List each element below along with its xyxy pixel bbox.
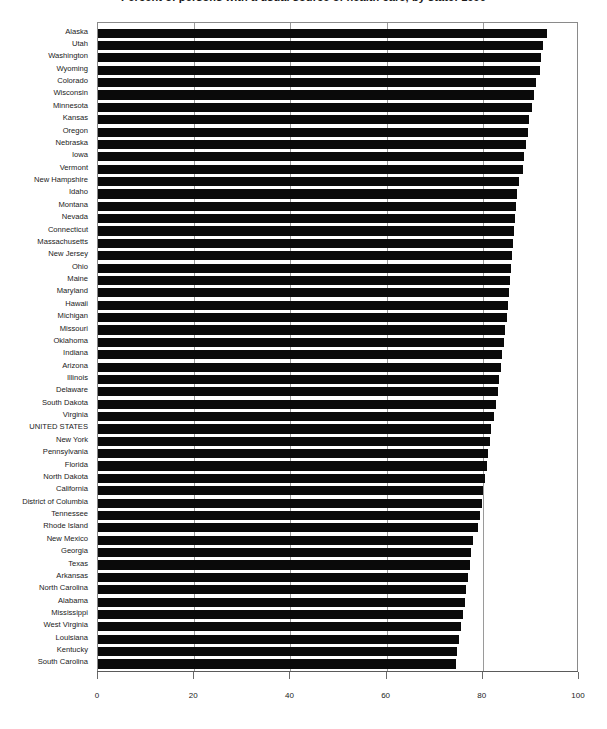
bar (98, 90, 534, 99)
category-label: Illinois (0, 374, 88, 382)
category-label: Tennessee (0, 510, 88, 518)
bar (98, 499, 482, 508)
category-label: Mississippi (0, 609, 88, 617)
x-tick-20 (193, 672, 194, 679)
bar (98, 474, 485, 483)
bar (98, 536, 473, 545)
bar (98, 338, 504, 347)
category-label: Delaware (0, 386, 88, 394)
x-axis-line (97, 671, 578, 672)
bar (98, 103, 532, 112)
x-tick-0 (97, 672, 98, 679)
bar (98, 449, 488, 458)
bar (98, 226, 514, 235)
bar (98, 165, 523, 174)
bar (98, 635, 459, 644)
category-label: Louisiana (0, 634, 88, 642)
plot-area (97, 22, 578, 672)
bar (98, 350, 502, 359)
category-label: Indiana (0, 349, 88, 357)
bar (98, 585, 466, 594)
bar (98, 152, 524, 161)
bar (98, 140, 526, 149)
category-label: Michigan (0, 312, 88, 320)
bar (98, 189, 517, 198)
category-label: Wyoming (0, 65, 88, 73)
bar (98, 461, 487, 470)
category-label: West Virginia (0, 621, 88, 629)
bar (98, 177, 519, 186)
bar (98, 560, 470, 569)
x-tick-label: 60 (381, 691, 390, 700)
category-label: South Dakota (0, 399, 88, 407)
bar (98, 400, 496, 409)
category-label: New Mexico (0, 535, 88, 543)
category-label: South Carolina (0, 658, 88, 666)
category-label: Georgia (0, 547, 88, 555)
category-label: Pennsylvania (0, 448, 88, 456)
bar (98, 647, 457, 656)
bar (98, 41, 543, 50)
category-axis-labels: AlaskaUtahWashingtonWyomingColoradoWisco… (0, 22, 92, 672)
bar (98, 202, 516, 211)
x-tick-80 (482, 672, 483, 679)
category-label: Colorado (0, 77, 88, 85)
category-label: New Hampshire (0, 176, 88, 184)
category-label: California (0, 485, 88, 493)
category-label: Florida (0, 461, 88, 469)
bar (98, 288, 509, 297)
bar (98, 53, 541, 62)
bar (98, 325, 505, 334)
bar (98, 573, 468, 582)
category-label: Connecticut (0, 226, 88, 234)
bar (98, 239, 513, 248)
category-label: Nebraska (0, 139, 88, 147)
category-label: Oregon (0, 127, 88, 135)
chart-title: Percent of persons with a usual source o… (0, 0, 607, 4)
x-tick-label: 100 (571, 691, 584, 700)
category-label: Alabama (0, 597, 88, 605)
category-label: Hawaii (0, 300, 88, 308)
bar (98, 29, 547, 38)
category-label: Kansas (0, 114, 88, 122)
category-label: Maine (0, 275, 88, 283)
category-label: Idaho (0, 188, 88, 196)
x-tick-label: 20 (189, 691, 198, 700)
category-label: Ohio (0, 263, 88, 271)
category-label: District of Columbia (0, 498, 88, 506)
category-label: Washington (0, 52, 88, 60)
bar (98, 301, 508, 310)
category-label: Oklahoma (0, 337, 88, 345)
bar (98, 387, 498, 396)
bar (98, 251, 512, 260)
bar-chart-figure: Percent of persons with a usual source o… (0, 0, 607, 729)
category-label: North Dakota (0, 473, 88, 481)
x-tick-40 (289, 672, 290, 679)
category-label: Iowa (0, 151, 88, 159)
bar (98, 313, 507, 322)
bar (98, 598, 465, 607)
bar (98, 511, 480, 520)
category-label: Arkansas (0, 572, 88, 580)
category-label: Arizona (0, 362, 88, 370)
category-label: Maryland (0, 287, 88, 295)
bar (98, 659, 456, 668)
category-label: Alaska (0, 28, 88, 36)
bar (98, 214, 515, 223)
x-tick-100 (578, 672, 579, 679)
category-label: Wisconsin (0, 89, 88, 97)
bar (98, 375, 499, 384)
x-tick-label: 40 (285, 691, 294, 700)
bar (98, 610, 463, 619)
category-label: New York (0, 436, 88, 444)
bar (98, 424, 491, 433)
bar (98, 548, 471, 557)
x-tick-label: 0 (95, 691, 99, 700)
category-label: Rhode Island (0, 522, 88, 530)
category-label: Virginia (0, 411, 88, 419)
bar (98, 128, 528, 137)
bar (98, 437, 490, 446)
bar (98, 412, 494, 421)
category-label: Kentucky (0, 646, 88, 654)
x-tick-label: 80 (477, 691, 486, 700)
